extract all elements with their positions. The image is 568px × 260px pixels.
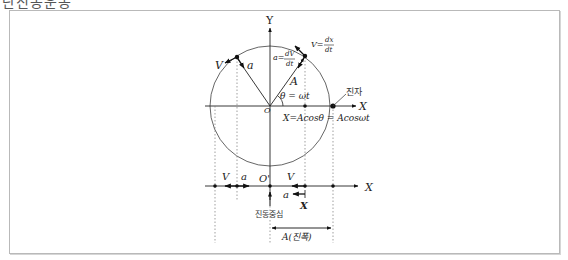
axis-dot — [268, 184, 272, 188]
accel-right-numerator: dV — [285, 50, 295, 58]
bottom-accel-left: a — [241, 171, 247, 182]
pendulum-leader — [333, 94, 346, 106]
accel-right-label: a= — [273, 53, 284, 62]
axis-dot — [213, 184, 217, 188]
projection-formula: X=Acosθ = Acosωt — [282, 113, 370, 123]
axis-dot — [331, 184, 335, 188]
angle-label: θ = ωt — [280, 91, 310, 101]
acceleration-arrow-left — [237, 57, 244, 68]
origin-label: O — [264, 106, 271, 115]
acceleration-arrow-right — [298, 56, 305, 68]
velocity-arrow-left — [225, 57, 237, 63]
y-axis-label: Y — [265, 14, 274, 27]
bottom-velocity-left: V — [222, 171, 231, 182]
x-axis-bottom-label: X — [364, 181, 374, 194]
x-axis-top-label: X — [358, 100, 368, 113]
velocity-right-label: V= — [311, 40, 323, 49]
shm-diagram: Y X O A θ = ωt V= dx dt a= dV dt V a 진자 … — [0, 0, 568, 260]
accel-left-label: a — [247, 59, 254, 72]
origin-bottom-label: O' — [259, 173, 270, 184]
accel-right-denominator: dt — [286, 60, 293, 68]
velocity-right-denominator: dt — [325, 46, 332, 54]
velocity-right-numerator: dx — [325, 36, 333, 44]
bottom-velocity-right: V — [287, 171, 296, 182]
pendulum-label: 진자 — [346, 87, 363, 97]
bottom-accel-right: a — [283, 189, 289, 200]
projection-point — [303, 104, 307, 108]
amplitude-label: A(진폭) — [281, 232, 312, 242]
radius-label: A — [289, 75, 298, 88]
velocity-left-label: V — [215, 59, 224, 72]
bottom-x-marker: X — [299, 200, 309, 211]
center-of-oscillation-label: 진동중심 — [255, 209, 283, 219]
